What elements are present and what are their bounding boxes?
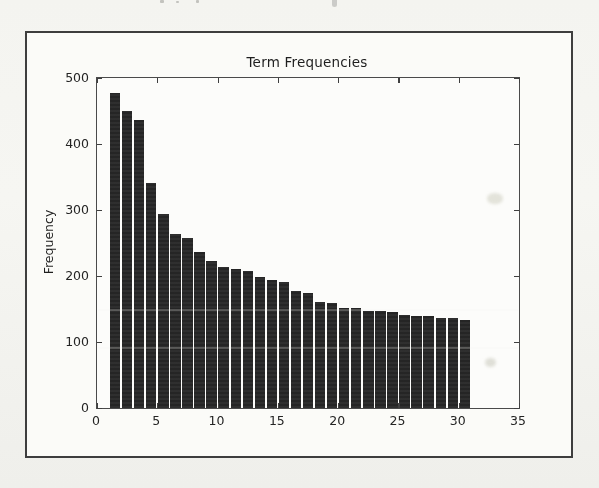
y-tick-mark	[514, 276, 519, 277]
y-tick-mark	[97, 144, 102, 145]
x-axis-tick-label: 20	[329, 413, 345, 428]
bar	[243, 271, 253, 408]
x-tick-mark	[278, 78, 279, 83]
x-axis-tick-label: 10	[209, 413, 225, 428]
y-tick-mark	[97, 210, 102, 211]
y-tick-mark	[514, 210, 519, 211]
bar	[411, 316, 421, 408]
bar	[170, 234, 180, 408]
bar	[315, 302, 325, 408]
photo-artifact	[98, 347, 518, 349]
bar	[279, 282, 289, 408]
y-tick-mark	[97, 276, 102, 277]
bar	[110, 93, 120, 408]
x-axis-tick-label: 35	[510, 413, 526, 428]
bar	[460, 320, 470, 408]
x-tick-mark	[519, 403, 520, 408]
figure-frame: Term Frequencies Frequency 0510152025303…	[25, 31, 573, 458]
bar	[436, 318, 446, 408]
y-axis-tick-label: 100	[29, 334, 89, 349]
x-tick-mark	[519, 78, 520, 83]
x-axis-tick-label: 30	[450, 413, 466, 428]
bar	[134, 120, 144, 408]
bar	[387, 312, 397, 408]
x-tick-mark	[218, 78, 219, 83]
y-tick-mark	[97, 408, 102, 409]
bar	[255, 277, 265, 408]
x-tick-mark	[398, 403, 399, 408]
bar	[122, 111, 132, 408]
x-tick-mark	[459, 78, 460, 83]
y-axis-tick-label: 500	[29, 70, 89, 85]
photo-background: Term Frequencies Frequency 0510152025303…	[0, 0, 599, 488]
y-tick-mark	[514, 78, 519, 79]
y-axis-tick-label: 200	[29, 268, 89, 283]
bar	[399, 315, 409, 408]
bar	[339, 308, 349, 408]
bar	[327, 303, 337, 408]
x-tick-mark	[338, 78, 339, 83]
y-axis-tick-label: 300	[29, 202, 89, 217]
photo-artifact	[332, 0, 337, 7]
photo-artifact	[98, 309, 518, 311]
y-tick-mark	[97, 342, 102, 343]
x-axis-tick-label: 0	[92, 413, 100, 428]
photo-artifact	[485, 358, 496, 367]
y-tick-mark	[514, 144, 519, 145]
y-axis-tick-label: 0	[29, 400, 89, 415]
bar	[231, 269, 241, 408]
bar	[182, 238, 192, 408]
x-axis-tick-label: 15	[269, 413, 285, 428]
y-tick-mark	[514, 408, 519, 409]
x-tick-mark	[218, 403, 219, 408]
x-tick-mark	[338, 403, 339, 408]
bar	[375, 311, 385, 408]
bar	[423, 316, 433, 408]
y-axis-tick-label: 400	[29, 136, 89, 151]
bar	[206, 261, 216, 408]
chart-title: Term Frequencies	[96, 54, 518, 72]
bar	[363, 311, 373, 408]
bar	[267, 280, 277, 408]
y-axis-label: Frequency	[41, 210, 56, 275]
photo-artifact	[196, 0, 199, 3]
x-tick-mark	[157, 403, 158, 408]
y-tick-mark	[514, 342, 519, 343]
x-tick-mark	[398, 78, 399, 83]
photo-artifact	[176, 1, 179, 3]
bar	[351, 308, 361, 408]
bar	[448, 318, 458, 408]
x-tick-mark	[459, 403, 460, 408]
y-tick-mark	[97, 78, 102, 79]
x-axis-tick-label: 25	[389, 413, 405, 428]
x-tick-mark	[278, 403, 279, 408]
bar	[218, 267, 228, 408]
bar	[146, 183, 156, 408]
x-tick-mark	[157, 78, 158, 83]
bar	[194, 252, 204, 408]
photo-artifact	[487, 193, 503, 204]
x-axis-tick-label: 5	[152, 413, 160, 428]
photo-artifact	[160, 0, 164, 3]
plot-area	[96, 77, 520, 409]
figure: Term Frequencies Frequency 0510152025303…	[27, 33, 571, 456]
